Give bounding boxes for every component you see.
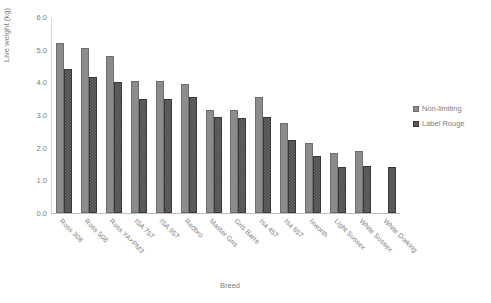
bar-groups bbox=[52, 18, 400, 213]
bar-group bbox=[52, 18, 77, 213]
y-axis-tick-label: 0.0 bbox=[37, 210, 47, 218]
x-axis-tick-slot: White Dorking bbox=[376, 216, 401, 278]
y-axis-tick-label: 6.0 bbox=[37, 14, 47, 22]
bar-group bbox=[325, 18, 350, 213]
bar-label-rouge[interactable] bbox=[139, 99, 147, 213]
x-axis-tick-slot: Ixworth bbox=[301, 216, 326, 278]
bar-group bbox=[151, 18, 176, 213]
legend-swatch-icon bbox=[413, 106, 419, 112]
bar-group bbox=[276, 18, 301, 213]
bar-group bbox=[251, 18, 276, 213]
bar-non-limiting[interactable] bbox=[206, 110, 214, 213]
bar-label-rouge[interactable] bbox=[189, 97, 197, 213]
x-axis-tick-slot: ISA 757 bbox=[127, 216, 152, 278]
y-axis-tick-label: 2.0 bbox=[37, 145, 47, 153]
bar-non-limiting[interactable] bbox=[181, 84, 189, 213]
legend-item-label: Label Rouge bbox=[422, 119, 465, 128]
y-axis-title: Live weight (kg) bbox=[2, 0, 11, 95]
x-axis-tick-slot: Isa 457 bbox=[251, 216, 276, 278]
legend-swatch-icon bbox=[413, 121, 419, 127]
bar-label-rouge[interactable] bbox=[164, 99, 172, 213]
bar-label-rouge[interactable] bbox=[89, 77, 97, 213]
legend-item-label-rouge[interactable]: Label Rouge bbox=[413, 119, 465, 128]
bar-group bbox=[127, 18, 152, 213]
y-axis-tick-labels: 6.05.04.03.02.01.00.0 bbox=[24, 18, 50, 214]
y-axis-tick-label: 3.0 bbox=[37, 112, 47, 120]
x-axis-tick-slot: Redbro bbox=[177, 216, 202, 278]
chart-legend: Non-limiting Label Rouge bbox=[413, 104, 465, 128]
bar-label-rouge[interactable] bbox=[388, 167, 396, 213]
bar-non-limiting[interactable] bbox=[131, 81, 139, 213]
bar-chart: Live weight (kg) 6.05.04.03.02.01.00.0 R… bbox=[0, 0, 491, 303]
bar-group bbox=[176, 18, 201, 213]
bar-group bbox=[301, 18, 326, 213]
bar-label-rouge[interactable] bbox=[313, 156, 321, 213]
bar-non-limiting[interactable] bbox=[280, 123, 288, 213]
y-axis-tick-label: 5.0 bbox=[37, 47, 47, 55]
x-axis-tick-labels: Ross 308Ross 508Ross YA×PM3ISA 757ISA 95… bbox=[52, 216, 401, 278]
x-axis-tick-slot: White Sussex bbox=[351, 216, 376, 278]
bar-non-limiting[interactable] bbox=[305, 143, 313, 213]
legend-item-non-limiting[interactable]: Non-limiting bbox=[413, 104, 465, 113]
bar-label-rouge[interactable] bbox=[238, 118, 246, 213]
bar-group bbox=[77, 18, 102, 213]
y-axis-tick-label: 4.0 bbox=[37, 80, 47, 88]
bar-label-rouge[interactable] bbox=[214, 117, 222, 213]
x-axis-line bbox=[51, 213, 400, 214]
bar-label-rouge[interactable] bbox=[363, 166, 371, 213]
bar-non-limiting[interactable] bbox=[81, 48, 89, 213]
bar-group bbox=[226, 18, 251, 213]
plot-area bbox=[51, 18, 400, 214]
bar-non-limiting[interactable] bbox=[255, 97, 263, 213]
bar-non-limiting[interactable] bbox=[230, 110, 238, 213]
bar-group bbox=[350, 18, 375, 213]
x-axis-tick-slot: Master Gris bbox=[202, 216, 227, 278]
x-axis-tick-slot: ISA 957 bbox=[152, 216, 177, 278]
y-axis-tick-label: 1.0 bbox=[37, 178, 47, 186]
x-axis-tick-slot: Gris Barre bbox=[226, 216, 251, 278]
x-axis-tick-slot: Ross 508 bbox=[77, 216, 102, 278]
x-axis-tick-slot: Ross 308 bbox=[52, 216, 77, 278]
bar-group bbox=[102, 18, 127, 213]
bar-label-rouge[interactable] bbox=[64, 69, 72, 213]
bar-label-rouge[interactable] bbox=[114, 82, 122, 213]
x-axis-tick-slot: Ross YA×PM3 bbox=[102, 216, 127, 278]
legend-item-label: Non-limiting bbox=[422, 104, 462, 113]
bar-non-limiting[interactable] bbox=[355, 151, 363, 213]
bar-label-rouge[interactable] bbox=[288, 140, 296, 214]
bar-label-rouge[interactable] bbox=[338, 167, 346, 213]
bar-group bbox=[375, 18, 400, 213]
bar-group bbox=[201, 18, 226, 213]
bar-non-limiting[interactable] bbox=[56, 43, 64, 213]
x-axis-tick-label: White Dorking bbox=[383, 217, 419, 253]
x-axis-title: Breed bbox=[0, 281, 460, 290]
bar-non-limiting[interactable] bbox=[156, 81, 164, 213]
bar-non-limiting[interactable] bbox=[330, 153, 338, 213]
bar-label-rouge[interactable] bbox=[263, 117, 271, 213]
x-axis-tick-slot: Isa 657 bbox=[276, 216, 301, 278]
bar-non-limiting[interactable] bbox=[106, 56, 114, 213]
x-axis-tick-slot: Light Sussex bbox=[326, 216, 351, 278]
